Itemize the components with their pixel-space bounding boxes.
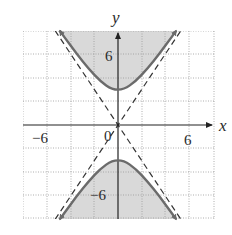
y-axis-label: y (110, 8, 120, 27)
x-axis-label: x (218, 116, 227, 135)
origin-label: 0 (104, 128, 112, 144)
hyperbola-inequality-graph: y x −6 6 6 −6 0 (0, 0, 232, 235)
x-tick-label-pos6: 6 (184, 132, 192, 148)
y-tick-label-neg6: −6 (90, 187, 106, 203)
x-tick-label-neg6: −6 (32, 130, 48, 146)
y-tick-label-pos6: 6 (105, 48, 113, 64)
